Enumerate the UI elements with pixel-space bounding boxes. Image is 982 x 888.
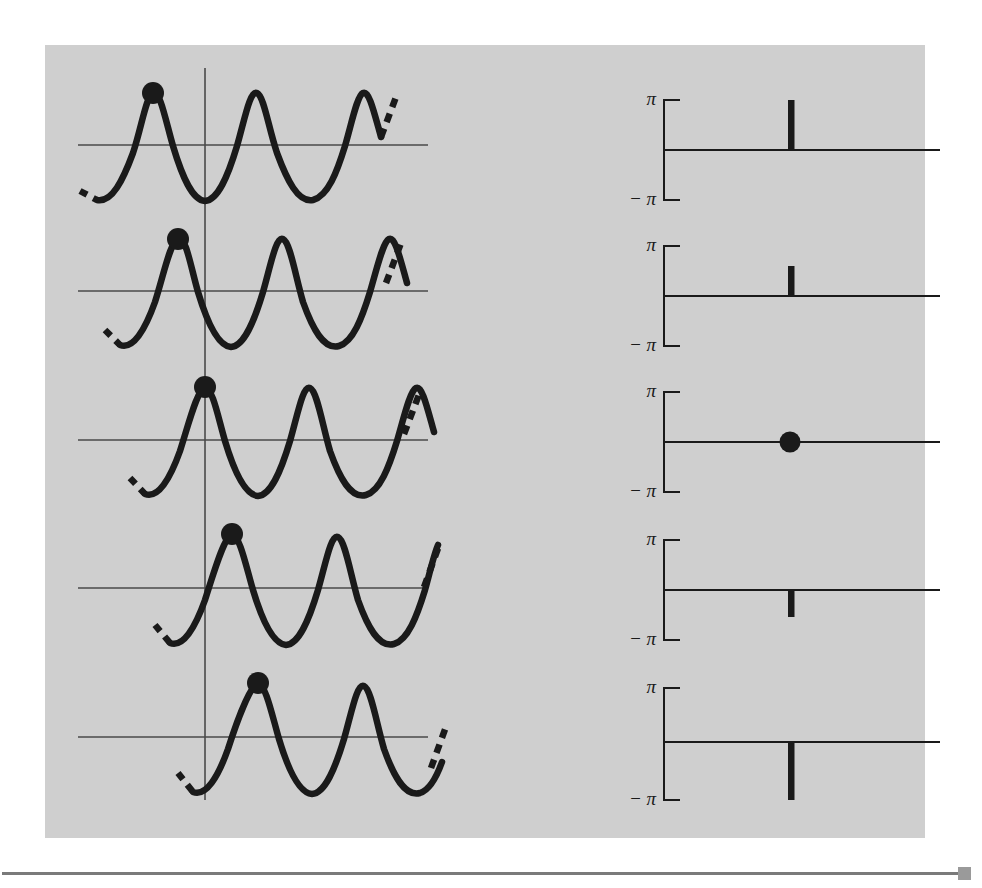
page-bottom-rule [2,872,960,875]
pi-label-row-2: π [612,234,656,256]
waveform-curve-row-2 [120,239,407,347]
page-bottom-rule-endcap [958,867,971,880]
waveform-dash-start-row-3 [130,478,145,494]
right-phase-plot-row-3 [664,392,940,492]
figure-plot-area [0,0,982,888]
left-waveform-row-2 [78,228,428,347]
phase-impulse-bar-row-2 [788,266,795,296]
pi-label-row-1: π [612,88,656,110]
waveform-curve-row-3 [145,387,434,496]
right-phase-plot-row-5 [664,688,940,800]
peak-marker-dot-row-5 [247,672,269,694]
left-waveform-row-1 [78,82,428,201]
waveform-dash-start-row-5 [178,773,193,792]
phase-impulse-bar-row-1 [788,100,795,150]
phase-impulse-bar-row-5 [788,742,795,800]
left-waveform-row-3 [78,376,434,496]
peak-marker-dot-row-4 [221,523,243,545]
waveform-dash-end-row-4 [424,543,440,587]
left-waveform-row-4 [78,523,440,645]
figure-page: π − π π − π π − π π − π π − π [0,0,982,888]
pi-scale-bracket-row-5 [664,688,680,800]
right-phase-plot-row-4 [664,540,940,640]
minus-pi-label-row-1: − π [600,188,656,210]
peak-marker-dot-row-3 [194,376,216,398]
waveform-curve-row-1 [97,93,381,201]
waveform-curve-row-5 [193,683,442,794]
minus-pi-label-row-5: − π [600,788,656,810]
waveform-curve-row-4 [170,534,438,645]
left-waveform-row-5 [78,672,447,794]
pi-label-row-5: π [612,676,656,698]
minus-pi-label-row-4: − π [600,628,656,650]
peak-marker-dot-row-1 [142,82,164,104]
right-phase-plot-row-1 [664,100,940,200]
waveform-dash-start-row-4 [155,625,170,643]
pi-label-row-4: π [612,528,656,550]
waveform-dash-end-row-1 [381,97,396,137]
minus-pi-label-row-2: − π [600,334,656,356]
phase-zero-marker-dot-row-3 [780,432,801,453]
minus-pi-label-row-3: − π [600,480,656,502]
pi-label-row-3: π [612,380,656,402]
right-phase-plot-row-2 [664,246,940,346]
peak-marker-dot-row-2 [167,228,189,250]
phase-impulse-bar-row-4 [788,590,795,617]
